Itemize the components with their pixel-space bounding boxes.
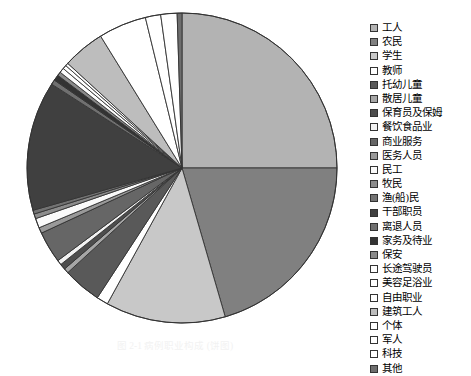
legend-item-label: 自由职业 [382, 291, 422, 305]
legend-item-label: 农民 [382, 35, 402, 49]
figure-caption: 图 2-1 病例职业构成 (饼图) [0, 338, 350, 352]
legend-swatch-icon [370, 223, 378, 231]
legend-swatch-icon [370, 251, 378, 259]
legend-swatch-icon [370, 67, 378, 75]
legend-item-label: 医务人员 [382, 149, 422, 163]
chart-legend: 工人农民学生教师托幼儿童散居儿童保育员及保姆餐饮食品业商业服务医务人员民工牧民渔… [370, 21, 470, 376]
legend-item[interactable]: 渔(船)民 [370, 191, 470, 205]
legend-swatch-icon [370, 24, 378, 32]
legend-item-label: 工人 [382, 21, 402, 35]
legend-item[interactable]: 医务人员 [370, 149, 470, 163]
legend-swatch-icon [370, 138, 378, 146]
legend-item[interactable]: 农民 [370, 35, 470, 49]
legend-item-label: 散居儿童 [382, 92, 422, 106]
legend-item[interactable]: 美容足浴业 [370, 276, 470, 290]
legend-swatch-icon [370, 322, 378, 330]
legend-swatch-icon [370, 52, 378, 60]
legend-item-label: 军人 [382, 333, 402, 347]
legend-item-label: 个体 [382, 319, 402, 333]
legend-item-label: 离退人员 [382, 220, 422, 234]
legend-item[interactable]: 建筑工人 [370, 305, 470, 319]
legend-swatch-icon [370, 109, 378, 117]
legend-item[interactable]: 工人 [370, 21, 470, 35]
legend-swatch-icon [370, 38, 378, 46]
legend-item-label: 保育员及保姆 [382, 106, 442, 120]
legend-swatch-icon [370, 308, 378, 316]
pie-chart-area [14, 6, 344, 331]
legend-item-label: 民工 [382, 163, 402, 177]
legend-item[interactable]: 散居儿童 [370, 92, 470, 106]
legend-item[interactable]: 餐饮食品业 [370, 120, 470, 134]
legend-item-label: 其他 [382, 362, 402, 376]
legend-item[interactable]: 牧民 [370, 177, 470, 191]
legend-item-label: 学生 [382, 49, 402, 63]
legend-swatch-icon [370, 123, 378, 131]
legend-item[interactable]: 干部职员 [370, 205, 470, 219]
legend-item[interactable]: 商业服务 [370, 135, 470, 149]
legend-item-label: 建筑工人 [382, 305, 422, 319]
pie-slice[interactable] [182, 13, 337, 168]
legend-item-label: 渔(船)民 [382, 191, 419, 205]
legend-item[interactable]: 自由职业 [370, 291, 470, 305]
legend-item[interactable]: 军人 [370, 333, 470, 347]
legend-item-label: 餐饮食品业 [382, 120, 432, 134]
legend-swatch-icon [370, 81, 378, 89]
legend-item[interactable]: 保安 [370, 248, 470, 262]
pie-chart-svg [14, 6, 344, 331]
legend-item-label: 美容足浴业 [382, 276, 432, 290]
legend-swatch-icon [370, 336, 378, 344]
legend-item-label: 保安 [382, 248, 402, 262]
legend-item[interactable]: 长途驾驶员 [370, 262, 470, 276]
legend-swatch-icon [370, 365, 378, 373]
legend-item[interactable]: 托幼儿童 [370, 78, 470, 92]
legend-item-label: 科技 [382, 347, 402, 361]
legend-swatch-icon [370, 294, 378, 302]
legend-swatch-icon [370, 279, 378, 287]
legend-swatch-icon [370, 194, 378, 202]
legend-item-label: 牧民 [382, 177, 402, 191]
legend-item-label: 干部职员 [382, 205, 422, 219]
legend-item-label: 商业服务 [382, 135, 422, 149]
legend-swatch-icon [370, 166, 378, 174]
legend-swatch-icon [370, 209, 378, 217]
legend-item[interactable]: 其他 [370, 362, 470, 376]
pie-slices-group [27, 13, 337, 323]
legend-item[interactable]: 民工 [370, 163, 470, 177]
legend-item-label: 长途驾驶员 [382, 262, 432, 276]
legend-swatch-icon [370, 152, 378, 160]
legend-swatch-icon [370, 95, 378, 103]
legend-swatch-icon [370, 180, 378, 188]
legend-item[interactable]: 家务及待业 [370, 234, 470, 248]
legend-item[interactable]: 教师 [370, 64, 470, 78]
legend-swatch-icon [370, 350, 378, 358]
legend-swatch-icon [370, 237, 378, 245]
legend-item-label: 教师 [382, 64, 402, 78]
legend-item-label: 家务及待业 [382, 234, 432, 248]
legend-item[interactable]: 学生 [370, 49, 470, 63]
legend-item[interactable]: 保育员及保姆 [370, 106, 470, 120]
legend-item[interactable]: 科技 [370, 347, 470, 361]
legend-item[interactable]: 个体 [370, 319, 470, 333]
legend-swatch-icon [370, 265, 378, 273]
legend-item[interactable]: 离退人员 [370, 220, 470, 234]
legend-item-label: 托幼儿童 [382, 78, 422, 92]
